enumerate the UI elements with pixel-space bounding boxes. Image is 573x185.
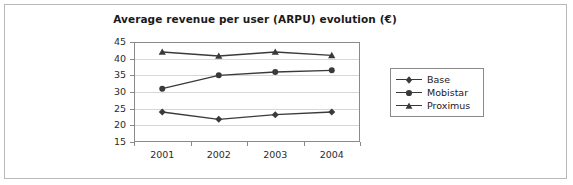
x-axis-tick-mark: [304, 142, 305, 146]
x-axis-tick-label: 2003: [255, 149, 295, 160]
y-axis-tick-mark: [130, 109, 134, 110]
series-base: [159, 109, 336, 123]
y-axis-tick-label: 25: [102, 104, 126, 114]
data-point: [329, 67, 335, 73]
series-proximus: [159, 48, 336, 58]
legend-item-base: Base: [396, 73, 478, 86]
data-point: [328, 109, 335, 116]
legend-marker-diamond-icon: [396, 74, 422, 86]
x-axis-tick-mark: [134, 142, 135, 146]
legend-marker-triangle-icon: [396, 100, 422, 112]
x-axis-tick-mark: [191, 142, 192, 146]
legend-item-proximus: Proximus: [396, 99, 478, 112]
y-axis-tick-mark: [130, 42, 134, 43]
y-axis-tick-label: 20: [102, 120, 126, 130]
x-axis-tick-mark: [360, 142, 361, 146]
legend-label-base: Base: [427, 74, 450, 85]
data-point: [215, 116, 222, 123]
y-axis-tick-mark: [130, 125, 134, 126]
chart-legend: Base Mobistar Proximus: [390, 68, 484, 117]
x-axis-tick-label: 2004: [312, 149, 352, 160]
y-axis-tick-mark: [130, 59, 134, 60]
y-axis-tick-label: 45: [102, 37, 126, 47]
legend-label-proximus: Proximus: [427, 100, 470, 111]
x-axis-tick-label: 2001: [142, 149, 182, 160]
data-point: [159, 109, 166, 116]
chart-frame: Average revenue per user (ARPU) evolutio…: [4, 4, 567, 179]
data-point: [272, 69, 278, 75]
data-point: [272, 111, 279, 118]
legend-marker-circle-icon: [396, 87, 422, 99]
legend-item-mobistar: Mobistar: [396, 86, 478, 99]
series-mobistar: [159, 67, 335, 91]
y-axis-tick-label: 15: [102, 137, 126, 147]
data-point: [159, 86, 165, 92]
legend-label-mobistar: Mobistar: [427, 87, 468, 98]
y-axis-tick-label: 35: [102, 70, 126, 80]
y-axis-tick-mark: [130, 75, 134, 76]
y-axis-tick-label: 30: [102, 87, 126, 97]
x-axis-tick-mark: [247, 142, 248, 146]
y-axis-tick-mark: [130, 92, 134, 93]
chart-area: Average revenue per user (ARPU) evolutio…: [5, 5, 568, 180]
x-axis-tick-label: 2002: [199, 149, 239, 160]
data-point: [216, 72, 222, 78]
y-axis-tick-label: 40: [102, 54, 126, 64]
